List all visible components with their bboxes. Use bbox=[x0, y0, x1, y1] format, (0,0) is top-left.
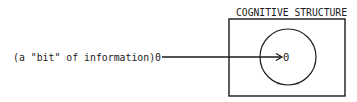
cognitive-structure-diagram: COGNITIVE STRUCTURE (a "bit" of informat… bbox=[0, 0, 357, 102]
target-bit-label: 0 bbox=[283, 51, 289, 63]
structure-label: COGNITIVE STRUCTURE bbox=[236, 6, 347, 18]
information-bit-label: (a "bit" of information)0 bbox=[13, 51, 161, 63]
